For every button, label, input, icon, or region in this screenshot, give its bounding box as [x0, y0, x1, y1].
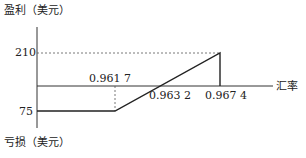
x-tick-09674: 0.967 4: [205, 90, 247, 101]
y-axis-label-loss: 亏损（美元）: [4, 137, 70, 148]
payoff-chart: [0, 0, 306, 158]
y-tick-75: 75: [19, 106, 33, 117]
x-tick-09617: 0.961 7: [89, 73, 131, 84]
y-axis-label-profit: 盈利（美元）: [4, 5, 70, 16]
x-axis-label-exchange-rate: 汇率: [276, 81, 298, 92]
x-tick-09632: 0.963 2: [149, 90, 191, 101]
y-tick-210: 210: [15, 47, 36, 58]
